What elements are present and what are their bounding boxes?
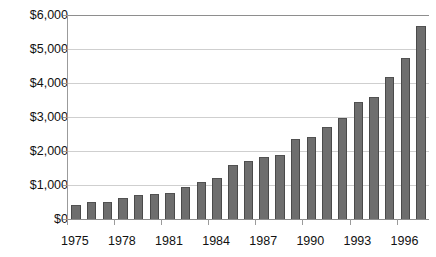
- bar-chart: $6,000$5,000$4,000$3,000$2,000$1,000$0 1…: [0, 0, 436, 257]
- bar: [416, 26, 425, 219]
- plot-area: [67, 15, 428, 219]
- x-axis-tickmark: [114, 219, 115, 225]
- bar: [322, 127, 331, 219]
- bar: [385, 77, 394, 219]
- x-axis-tick-label: 1975: [53, 235, 97, 248]
- x-axis-tick-label: 1978: [100, 235, 144, 248]
- bar: [103, 202, 112, 219]
- x-axis-tickmark: [161, 219, 162, 225]
- x-axis-tickmark: [255, 219, 256, 225]
- bar: [71, 205, 80, 219]
- bar: [291, 139, 300, 219]
- gridline: [68, 219, 429, 220]
- x-axis-tick-label: 1990: [288, 235, 332, 248]
- bar: [165, 193, 174, 219]
- bar: [197, 182, 206, 219]
- bar: [87, 202, 96, 219]
- x-axis-tick-label: 1996: [382, 235, 426, 248]
- y-axis-tick-label: $3,000: [6, 111, 68, 124]
- bar: [134, 195, 143, 219]
- bar: [369, 97, 378, 219]
- y-axis-tick-label: $5,000: [6, 43, 68, 56]
- y-axis-tick-label: $0: [6, 213, 68, 226]
- bar: [338, 118, 347, 219]
- bar: [181, 187, 190, 219]
- x-axis-tickmark: [397, 219, 398, 225]
- bar: [244, 161, 253, 219]
- bar: [150, 194, 159, 220]
- x-axis-tickmark: [302, 219, 303, 225]
- bar: [118, 198, 127, 219]
- x-axis-tick-label: 1984: [194, 235, 238, 248]
- bar: [354, 102, 363, 219]
- bar: [259, 157, 268, 219]
- x-axis-tickmark: [208, 219, 209, 225]
- y-axis-tick-label: $2,000: [6, 145, 68, 158]
- bar: [212, 178, 221, 219]
- bar: [228, 165, 237, 219]
- bar: [275, 155, 284, 219]
- bar: [401, 58, 410, 220]
- y-axis-tick-label: $1,000: [6, 179, 68, 192]
- bar-series: [68, 15, 429, 219]
- bar: [307, 137, 316, 219]
- x-axis-tickmark: [67, 219, 68, 225]
- y-axis-tick-label: $6,000: [6, 9, 68, 22]
- x-axis-tick-label: 1993: [335, 235, 379, 248]
- y-axis-tick-label: $4,000: [6, 77, 68, 90]
- x-axis-tickmark: [350, 219, 351, 225]
- x-axis-tick-label: 1987: [241, 235, 285, 248]
- x-axis-tick-label: 1981: [147, 235, 191, 248]
